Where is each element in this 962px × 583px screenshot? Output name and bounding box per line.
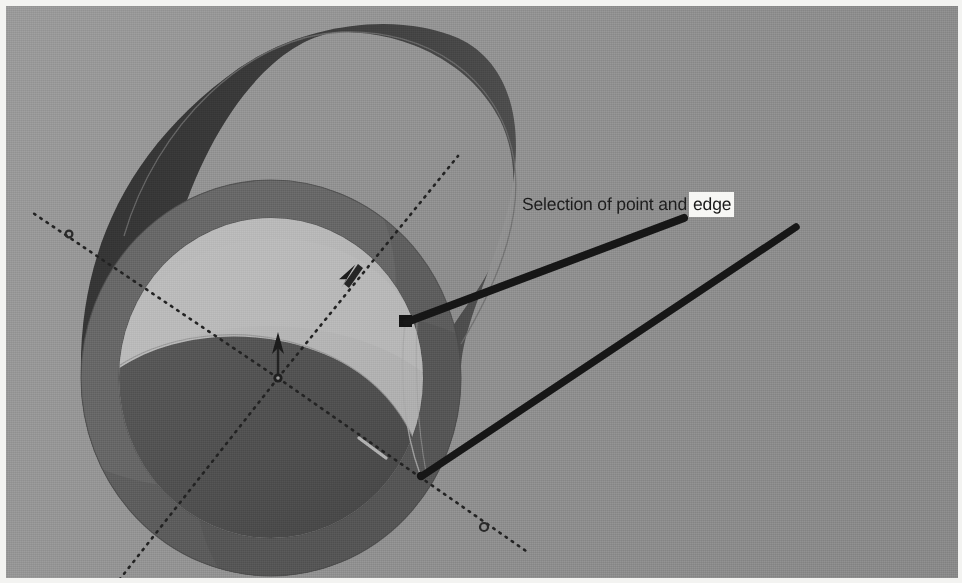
axis-endpoint-marker-lower-right: [480, 523, 488, 531]
annotation-label-prefix: Selection of point and: [522, 193, 687, 216]
axis-endpoint-marker-upper-left: [66, 231, 73, 238]
annotation-label-highlight: edge: [689, 192, 734, 217]
cad-model-3d: [6, 6, 958, 578]
cad-viewport[interactable]: Selection of point andedge: [6, 6, 958, 578]
screenshot-root: Selection of point andedge: [0, 0, 962, 583]
annotation-label: Selection of point andedge: [522, 196, 734, 214]
origin-marker-inner: [276, 376, 280, 380]
